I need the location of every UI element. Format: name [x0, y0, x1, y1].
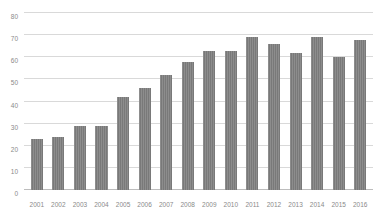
x-axis-label-slot: 2010 [220, 193, 242, 211]
bar-slot [69, 13, 91, 190]
x-axis-label-slot: 2015 [328, 193, 350, 211]
x-axis-tick-label-2009: 2009 [202, 201, 216, 208]
plot-area [24, 13, 373, 190]
x-axis-tick-label-2013: 2013 [288, 201, 302, 208]
x-axis-tick-label-2005: 2005 [116, 201, 130, 208]
x-axis-label-slot: 2011 [242, 193, 264, 211]
bar-slot [91, 13, 113, 190]
x-axis-tick-label-2007: 2007 [159, 201, 173, 208]
bar-series [24, 13, 373, 190]
bar-2009[interactable] [203, 51, 215, 190]
bar-slot [48, 13, 70, 190]
bar-2002[interactable] [52, 137, 64, 190]
x-axis-tick-label-2010: 2010 [224, 201, 238, 208]
x-axis-label-slot: 2002 [48, 193, 70, 211]
bar-2005[interactable] [117, 97, 129, 190]
x-axis-tick-label-2004: 2004 [94, 201, 108, 208]
x-axis-label-slot: 2007 [155, 193, 177, 211]
bar-slot [155, 13, 177, 190]
bar-2015[interactable] [333, 57, 345, 190]
x-axis-label-slot: 2016 [349, 193, 371, 211]
x-axis-label-slot: 2009 [199, 193, 221, 211]
chart-title-cropped [0, 0, 380, 6]
x-axis-label-slot: 2001 [26, 193, 48, 211]
x-axis-label-slot: 2012 [263, 193, 285, 211]
x-axis-tick-label-2014: 2014 [310, 201, 324, 208]
x-axis-label-slot: 2008 [177, 193, 199, 211]
bar-2014[interactable] [311, 37, 323, 190]
bar-slot [220, 13, 242, 190]
x-axis-tick-label-2011: 2011 [245, 201, 259, 208]
bar-slot [112, 13, 134, 190]
bar-slot [26, 13, 48, 190]
x-axis-label-slot: 2004 [91, 193, 113, 211]
bar-slot [263, 13, 285, 190]
y-axis-labels: 01020304050607080 [0, 13, 22, 190]
bar-2016[interactable] [354, 40, 366, 190]
x-axis-tick-label-2002: 2002 [51, 201, 65, 208]
x-axis-tick-label-2006: 2006 [137, 201, 151, 208]
x-axis-label-slot: 2006 [134, 193, 156, 211]
bar-2006[interactable] [139, 88, 151, 190]
bar-chart: 01020304050607080 2001200220032004200520… [0, 0, 380, 217]
x-axis-tick-label-2015: 2015 [331, 201, 345, 208]
bar-2012[interactable] [268, 44, 280, 190]
x-axis-label-slot: 2005 [112, 193, 134, 211]
bar-slot [306, 13, 328, 190]
bar-slot [199, 13, 221, 190]
bar-2004[interactable] [95, 126, 107, 190]
bar-2001[interactable] [31, 139, 43, 190]
bar-2010[interactable] [225, 51, 237, 190]
x-axis-tick-label-2008: 2008 [180, 201, 194, 208]
x-axis-tick-label-2001: 2001 [30, 201, 44, 208]
x-axis-label-slot: 2013 [285, 193, 307, 211]
bar-slot [349, 13, 371, 190]
bar-2013[interactable] [290, 53, 302, 190]
x-axis-labels: 2001200220032004200520062007200820092010… [24, 193, 373, 211]
bar-2011[interactable] [246, 37, 258, 190]
bar-2007[interactable] [160, 75, 172, 190]
bar-slot [285, 13, 307, 190]
bar-slot [242, 13, 264, 190]
bar-slot [328, 13, 350, 190]
bar-slot [134, 13, 156, 190]
x-axis-tick-label-2003: 2003 [73, 201, 87, 208]
bar-2003[interactable] [74, 126, 86, 190]
x-axis-label-slot: 2014 [306, 193, 328, 211]
x-axis-tick-label-2012: 2012 [267, 201, 281, 208]
x-axis-tick-label-2016: 2016 [353, 201, 367, 208]
bar-slot [177, 13, 199, 190]
x-axis-label-slot: 2003 [69, 193, 91, 211]
bar-2008[interactable] [182, 62, 194, 190]
